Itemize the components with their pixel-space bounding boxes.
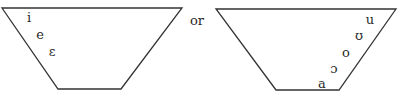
left-vowel-i: i <box>27 11 31 24</box>
right-vowel-u: u <box>366 13 374 26</box>
right-vowel-upsilon: ʊ <box>355 29 363 42</box>
right-vowel-open-o: ɔ <box>330 62 337 75</box>
right-vowel-a: a <box>318 77 326 90</box>
right-vowel-o: o <box>342 46 350 59</box>
left-vowel-open-e: ɛ <box>49 45 56 58</box>
left-vowel-e: e <box>36 28 44 41</box>
connector-or: or <box>190 14 204 27</box>
